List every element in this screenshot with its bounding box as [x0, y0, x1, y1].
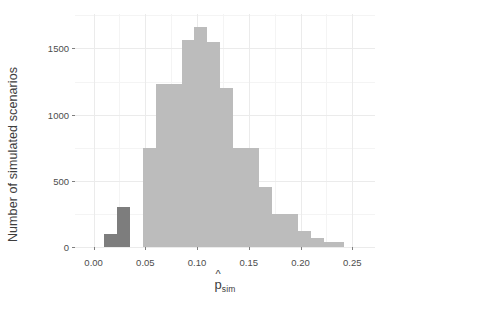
x-axis-tick-label: 0.20	[291, 257, 310, 268]
histogram-bar	[233, 148, 246, 247]
histogram-bar	[117, 207, 130, 247]
x-axis-title: ^ p sim	[75, 277, 375, 294]
histogram-figure: Number of simulated scenarios 0500100015…	[0, 0, 487, 309]
x-axis-tick-label: 0.25	[343, 257, 362, 268]
x-axis-tick-label: 0.15	[240, 257, 259, 268]
histogram-bar	[194, 27, 207, 247]
histogram-bar	[143, 148, 156, 247]
y-axis-tick-label: 1000	[48, 109, 69, 120]
y-axis-title: Number of simulated scenarios	[0, 0, 26, 309]
x-axis-tick-labels: 0.000.050.100.150.200.25	[75, 251, 375, 269]
histogram-bar	[156, 84, 169, 247]
histogram-bar	[311, 238, 324, 247]
x-axis-title-hat: ^	[214, 269, 221, 280]
plot-panel	[75, 14, 375, 247]
histogram-bar	[285, 214, 298, 247]
y-axis-tick-label: 500	[53, 175, 69, 186]
histogram-bar	[182, 40, 195, 247]
histogram-bar	[298, 231, 311, 247]
x-axis-tick-label: 0.00	[84, 257, 103, 268]
x-axis-tick-mark	[249, 247, 250, 250]
x-axis-tick-mark	[94, 247, 95, 250]
x-axis-title-symbol: ^ p	[214, 277, 221, 292]
histogram-bar	[207, 42, 220, 247]
histogram-bar	[272, 214, 285, 247]
y-axis-tick-label: 1500	[48, 43, 69, 54]
x-axis-tick-label: 0.10	[188, 257, 207, 268]
histogram-bar	[246, 148, 259, 247]
x-axis-tick-mark	[197, 247, 198, 250]
histogram-bar	[104, 234, 117, 247]
x-axis-tick-mark	[145, 247, 146, 250]
histogram-bar	[169, 84, 182, 247]
y-axis-tick-labels: 050010001500	[40, 14, 69, 247]
histogram-bar	[220, 88, 233, 247]
histogram-bars	[75, 14, 375, 247]
x-axis-tick-mark	[352, 247, 353, 250]
histogram-bar	[259, 187, 272, 247]
x-axis-title-subscript: sim	[222, 284, 236, 294]
y-axis-tick-label: 0	[64, 242, 69, 253]
x-axis-tick-mark	[301, 247, 302, 250]
x-axis-tick-label: 0.05	[136, 257, 155, 268]
